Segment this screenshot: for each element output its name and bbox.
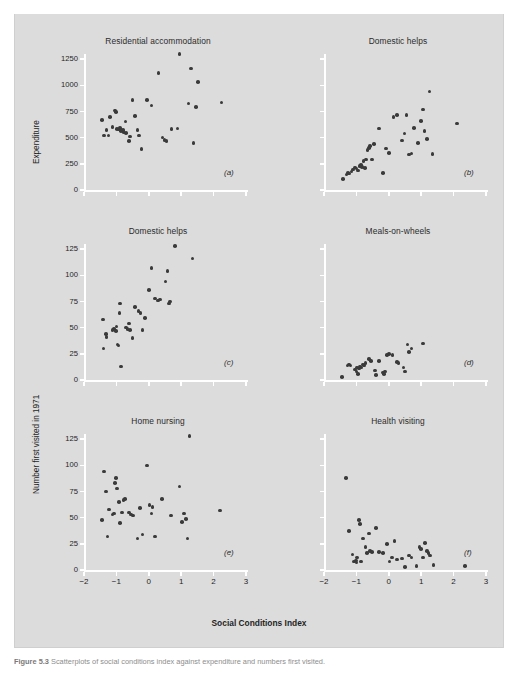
y-tick — [80, 569, 84, 571]
data-point — [377, 359, 381, 363]
y-axis-line — [324, 244, 326, 382]
data-point — [196, 80, 200, 84]
data-point — [388, 560, 392, 564]
y-tick — [80, 327, 84, 329]
data-point — [168, 300, 172, 304]
x-tick — [213, 572, 215, 576]
y-tick-label: 100 — [38, 270, 78, 279]
data-point — [403, 565, 407, 569]
y-tick — [80, 353, 84, 355]
y-tick — [320, 301, 324, 303]
data-point — [364, 361, 368, 365]
x-tick — [388, 192, 390, 196]
data-point — [136, 537, 140, 541]
data-point — [351, 553, 355, 557]
data-point — [184, 517, 188, 521]
data-point — [157, 71, 161, 75]
x-tick — [420, 572, 422, 576]
y-tick — [80, 58, 84, 60]
panel-label: (b) — [464, 168, 474, 177]
x-tick — [148, 192, 150, 196]
data-point — [393, 539, 397, 543]
data-point — [364, 158, 368, 162]
x-tick — [83, 382, 85, 386]
y-tick — [80, 517, 84, 519]
data-point — [395, 558, 399, 562]
y-axis-title-number-first-visited: Number first visited in 1971 — [32, 395, 41, 494]
x-tick — [388, 572, 390, 576]
y-tick — [320, 137, 324, 139]
data-point — [421, 556, 425, 560]
data-point — [369, 359, 373, 363]
x-tick — [245, 572, 247, 576]
x-tick-label: 2 — [202, 577, 226, 586]
data-point — [356, 169, 360, 173]
data-point — [128, 328, 132, 332]
data-point — [120, 511, 124, 515]
y-axis-title-expenditure: Expenditure — [32, 120, 41, 164]
x-tick — [453, 382, 455, 386]
data-point — [123, 497, 127, 501]
x-tick — [148, 572, 150, 576]
y-tick-label: 25 — [38, 349, 78, 358]
y-tick-label: 125 — [38, 244, 78, 253]
data-point — [176, 127, 180, 131]
data-point — [188, 434, 192, 438]
data-point — [349, 364, 353, 368]
data-point — [189, 67, 193, 71]
x-tick-label: −2 — [72, 577, 96, 586]
y-tick-label: 750 — [38, 107, 78, 116]
y-tick — [320, 569, 324, 571]
data-point — [384, 147, 388, 151]
scatter-panel-b: Domestic helps(b) — [300, 36, 496, 212]
x-tick — [180, 572, 182, 576]
data-point — [150, 512, 154, 516]
panel-title: Domestic helps — [300, 36, 496, 46]
panel-title: Meals-on-wheels — [300, 226, 496, 236]
data-point — [118, 521, 122, 525]
data-point — [347, 529, 351, 533]
x-tick-label: 1 — [409, 577, 433, 586]
x-axis-line — [84, 380, 248, 382]
data-point — [158, 298, 162, 302]
x-tick — [323, 192, 325, 196]
y-tick — [80, 379, 84, 381]
x-tick — [485, 572, 487, 576]
y-tick-label: 250 — [38, 159, 78, 168]
data-point — [105, 128, 109, 132]
data-point — [400, 557, 404, 561]
data-point — [410, 556, 414, 560]
y-tick-label: 125 — [38, 434, 78, 443]
data-point — [390, 556, 394, 560]
x-axis-line — [324, 570, 488, 572]
y-tick-label: 25 — [38, 539, 78, 548]
data-point — [166, 269, 170, 273]
y-tick-label: 75 — [38, 487, 78, 496]
data-point — [395, 113, 399, 117]
data-point — [355, 556, 359, 560]
data-point — [419, 119, 423, 123]
data-point — [419, 547, 423, 551]
data-point — [108, 115, 112, 119]
data-point — [410, 347, 414, 351]
data-point — [428, 554, 432, 558]
data-point — [357, 518, 361, 522]
data-point — [151, 505, 155, 509]
x-tick-label: 0 — [377, 577, 401, 586]
y-tick — [80, 543, 84, 545]
data-point — [105, 335, 109, 339]
panel-label: (f) — [464, 548, 472, 557]
data-point — [119, 365, 123, 369]
data-point — [164, 280, 168, 284]
data-point — [178, 485, 182, 489]
data-point — [423, 129, 427, 133]
panel-title: Residential accommodation — [60, 36, 256, 46]
data-point — [415, 564, 419, 568]
x-tick-label: 2 — [442, 577, 466, 586]
data-point — [150, 104, 154, 108]
scatter-panel-f: Health visiting−2−10123(f) — [300, 416, 496, 592]
data-point — [361, 537, 365, 541]
panel-label: (a) — [224, 168, 234, 177]
data-point — [170, 127, 174, 131]
x-axis-line — [84, 570, 248, 572]
